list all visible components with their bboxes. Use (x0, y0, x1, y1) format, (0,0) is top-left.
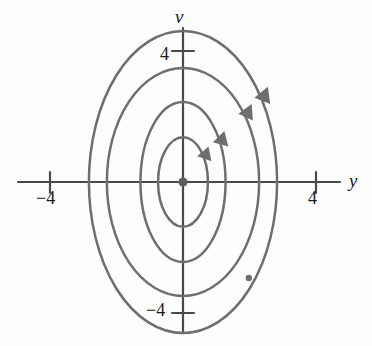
phase-portrait-figure: v y 4 −4 −4 4 (0, 0, 372, 346)
y-axis-label: y (349, 170, 357, 192)
tick-label-v-negative-4: −4 (146, 300, 165, 321)
v-axis-label: v (175, 6, 183, 28)
equilibrium-point-marker (178, 177, 187, 186)
phase-portrait-plot (0, 0, 372, 346)
direction-arrows-group (197, 84, 276, 161)
tick-label-y-negative-4: −4 (36, 188, 55, 209)
orbit-point-marker (246, 275, 252, 281)
direction-arrow-orbit-1-icon (197, 144, 215, 161)
direction-arrow-orbit-4-icon (254, 84, 275, 104)
tick-label-y-positive-4: 4 (308, 188, 317, 209)
tick-label-v-positive-4: 4 (160, 44, 169, 65)
